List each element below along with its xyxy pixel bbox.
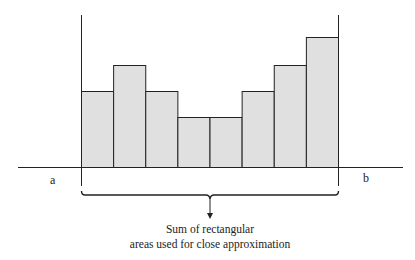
caption-line-1: Sum of rectangular xyxy=(100,222,320,237)
label-b: b xyxy=(363,171,369,186)
rectangle-bar xyxy=(178,118,210,168)
riemann-diagram xyxy=(0,0,415,260)
caption-line-2: areas used for close approximation xyxy=(100,237,320,252)
arrow-down-icon xyxy=(207,213,213,219)
rectangle-bar xyxy=(114,66,146,168)
rectangle-bar xyxy=(146,92,178,168)
rectangle-bar xyxy=(306,38,338,168)
rectangle-bar xyxy=(242,92,274,168)
rectangle-bar xyxy=(210,118,242,168)
label-a: a xyxy=(50,173,55,188)
rectangles xyxy=(82,38,339,168)
rectangle-bar xyxy=(274,66,306,168)
curly-brace xyxy=(82,191,339,199)
rectangle-bar xyxy=(82,92,114,168)
